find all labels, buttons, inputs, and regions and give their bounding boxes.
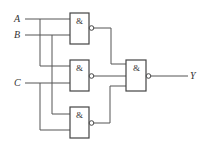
- input-label-a: A: [13, 13, 21, 24]
- gate-symbol: &: [76, 110, 83, 120]
- input-label-c: C: [14, 77, 21, 88]
- gate-symbol: &: [133, 63, 140, 73]
- input-wires: [25, 19, 70, 130]
- inversion-bubble-icon: [146, 74, 151, 79]
- nand-gate-2: &: [70, 60, 94, 91]
- nand-gate-3: &: [70, 107, 94, 138]
- intermediate-wires: [94, 28, 126, 123]
- input-label-b: B: [14, 29, 20, 40]
- inversion-bubble-icon: [89, 74, 94, 79]
- nand-gate-4: &: [126, 60, 151, 91]
- output-label-y: Y: [190, 70, 197, 81]
- gate-symbol: &: [76, 63, 83, 73]
- logic-circuit-diagram: A B C & & & &: [0, 0, 206, 150]
- gate-symbol: &: [76, 16, 83, 26]
- nand-gate-1: &: [70, 13, 94, 44]
- inversion-bubble-icon: [89, 26, 94, 31]
- inversion-bubble-icon: [89, 121, 94, 126]
